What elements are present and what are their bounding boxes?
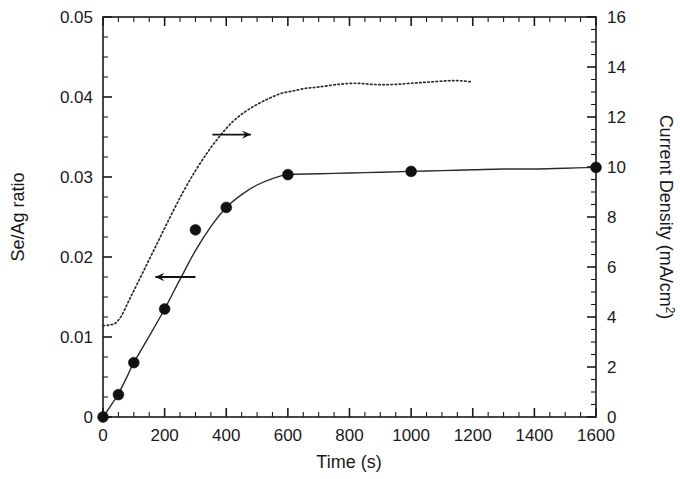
data-point-marker xyxy=(128,357,139,368)
y2-tick-label: 8 xyxy=(607,208,616,227)
y-axis-right-title-main: Current Density (mA/cm xyxy=(656,115,676,307)
y-axis-right-title: Current Density (mA/cm2) xyxy=(656,115,677,320)
y2-tick-label: 6 xyxy=(607,258,616,277)
series-current-density-line xyxy=(103,81,473,326)
plot-frame-rect xyxy=(103,17,596,417)
x-axis-title: Time (s) xyxy=(316,452,381,472)
series-se-ag-ratio-line xyxy=(103,167,596,417)
figure-root: 02004006008001000120014001600 00.010.020… xyxy=(0,0,680,479)
data-point-marker xyxy=(159,304,170,315)
y-tick-label: 0.04 xyxy=(60,88,93,107)
y-axis-left-ticks xyxy=(103,17,112,417)
y2-tick-label: 12 xyxy=(607,108,626,127)
axis-pointer-annotations xyxy=(155,130,251,281)
x-tick-label: 400 xyxy=(212,426,240,445)
data-series-group xyxy=(98,81,602,423)
y2-tick-label: 16 xyxy=(607,8,626,27)
data-point-marker xyxy=(282,169,293,180)
x-tick-label: 1600 xyxy=(577,426,615,445)
y2-tick-label: 14 xyxy=(607,58,626,77)
y-tick-label: 0.05 xyxy=(60,8,93,27)
chart-canvas: 02004006008001000120014001600 00.010.020… xyxy=(0,0,680,479)
x-tick-label: 200 xyxy=(150,426,178,445)
y2-tick-label: 10 xyxy=(607,158,626,177)
x-tick-label: 600 xyxy=(274,426,302,445)
x-tick-label: 1200 xyxy=(454,426,492,445)
x-tick-label: 1000 xyxy=(392,426,430,445)
y-axis-right-tick-labels: 0246810121416 xyxy=(607,8,626,427)
x-axis-ticks xyxy=(103,17,596,417)
data-point-marker xyxy=(98,412,109,423)
data-point-marker xyxy=(221,202,232,213)
x-tick-label: 800 xyxy=(335,426,363,445)
x-axis-tick-labels: 02004006008001000120014001600 xyxy=(98,426,615,445)
data-point-marker xyxy=(190,224,201,235)
y-axis-left-tick-labels: 00.010.020.030.040.05 xyxy=(60,8,93,427)
x-tick-label: 1400 xyxy=(515,426,553,445)
data-point-marker xyxy=(406,166,417,177)
data-point-marker xyxy=(113,389,124,400)
y2-tick-label: 2 xyxy=(607,358,616,377)
y-tick-label: 0.03 xyxy=(60,168,93,187)
y-axis-left-title: Se/Ag ratio xyxy=(8,172,28,261)
y-tick-label: 0.01 xyxy=(60,328,93,347)
data-point-marker xyxy=(591,162,602,173)
y-tick-label: 0 xyxy=(84,408,93,427)
y-tick-label: 0.02 xyxy=(60,248,93,267)
plot-frame xyxy=(103,17,596,417)
y2-tick-label: 4 xyxy=(607,308,616,327)
y-axis-right-title-tail: ) xyxy=(656,313,676,319)
y-axis-right-title-group: Current Density (mA/cm2) xyxy=(656,115,677,320)
y2-tick-label: 0 xyxy=(607,408,616,427)
y-axis-right-ticks xyxy=(587,17,596,417)
x-tick-label: 0 xyxy=(98,426,107,445)
